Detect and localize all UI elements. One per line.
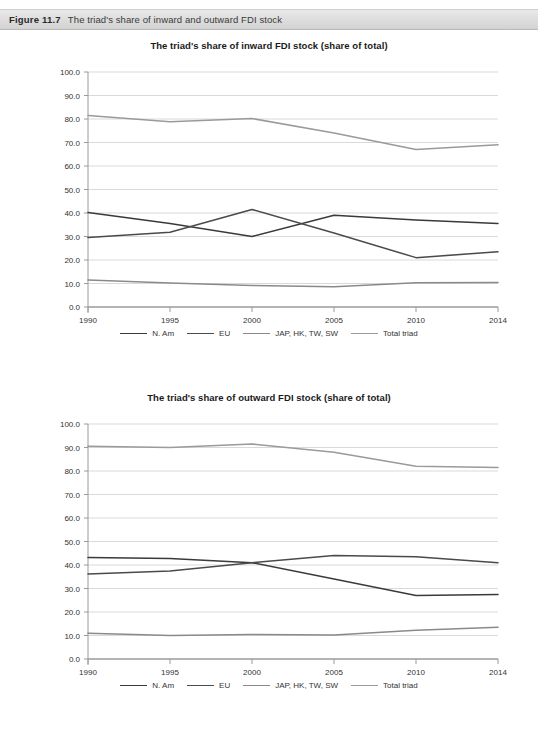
- legend-outward: N. AmEUJAP, HK, TW, SWTotal triad: [0, 681, 538, 690]
- y-axis-tick-label: 10.0: [64, 632, 80, 641]
- y-axis-tick-label: 20.0: [64, 608, 80, 617]
- y-axis-tick-label: 90.0: [64, 444, 80, 453]
- legend-label: Total triad: [383, 681, 418, 690]
- legend-line-swatch: [351, 333, 378, 334]
- legend-label: JAP, HK, TW, SW: [275, 329, 338, 338]
- y-axis-tick-label: 30.0: [64, 233, 80, 242]
- y-axis-tick-label: 60.0: [64, 514, 80, 523]
- x-axis-tick-label: 2010: [407, 668, 425, 677]
- series-line-total-triad: [88, 115, 498, 149]
- x-axis-tick-label: 2000: [243, 668, 261, 677]
- legend-label: N. Am: [152, 329, 174, 338]
- plot-area-inward: 0.010.020.030.040.050.060.070.080.090.01…: [0, 60, 538, 325]
- figure-caption-bar: Figure 11.7 The triad's share of inward …: [0, 9, 538, 30]
- legend-item: Total triad: [351, 329, 418, 338]
- y-axis-tick-label: 50.0: [64, 538, 80, 547]
- x-axis-tick-label: 2005: [325, 316, 343, 325]
- legend-item: JAP, HK, TW, SW: [243, 329, 338, 338]
- legend-line-swatch: [120, 685, 147, 686]
- legend-item: EU: [187, 329, 230, 338]
- legend-item: JAP, HK, TW, SW: [243, 681, 338, 690]
- line-plot-outward: 0.010.020.030.040.050.060.070.080.090.01…: [0, 412, 538, 677]
- legend-inward: N. AmEUJAP, HK, TW, SWTotal triad: [0, 329, 538, 338]
- y-axis-tick-label: 40.0: [64, 561, 80, 570]
- legend-label: EU: [219, 681, 230, 690]
- legend-line-swatch: [351, 685, 378, 686]
- legend-line-swatch: [243, 685, 270, 686]
- series-line-jap-hk-tw-sw: [88, 627, 498, 635]
- legend-item: EU: [187, 681, 230, 690]
- y-axis-tick-label: 80.0: [64, 467, 80, 476]
- legend-label: N. Am: [152, 681, 174, 690]
- legend-label: JAP, HK, TW, SW: [275, 681, 338, 690]
- legend-line-swatch: [243, 333, 270, 334]
- x-axis-tick-label: 1995: [161, 668, 179, 677]
- y-axis-tick-label: 30.0: [64, 585, 80, 594]
- y-axis-tick-label: 70.0: [64, 491, 80, 500]
- legend-line-swatch: [187, 685, 214, 686]
- legend-label: EU: [219, 329, 230, 338]
- series-line-n-am: [88, 557, 498, 595]
- x-axis-tick-label: 2014: [489, 316, 507, 325]
- y-axis-tick-label: 90.0: [64, 92, 80, 101]
- legend-line-swatch: [120, 333, 147, 334]
- figure-caption-text: The triad's share of inward and outward …: [68, 14, 282, 25]
- y-axis-tick-label: 100.0: [60, 420, 81, 429]
- y-axis-tick-label: 10.0: [64, 280, 80, 289]
- y-axis-tick-label: 0.0: [69, 655, 81, 664]
- x-axis-tick-label: 2000: [243, 316, 261, 325]
- plot-area-outward: 0.010.020.030.040.050.060.070.080.090.01…: [0, 412, 538, 677]
- x-axis-tick-label: 1995: [161, 316, 179, 325]
- x-axis-tick-label: 2014: [489, 668, 507, 677]
- chart-title-inward: The triad's share of inward FDI stock (s…: [0, 40, 538, 51]
- y-axis-tick-label: 80.0: [64, 115, 80, 124]
- line-plot-inward: 0.010.020.030.040.050.060.070.080.090.01…: [0, 60, 538, 325]
- x-axis-tick-label: 2005: [325, 668, 343, 677]
- y-axis-tick-label: 60.0: [64, 162, 80, 171]
- legend-label: Total triad: [383, 329, 418, 338]
- chart-title-outward: The triad's share of outward FDI stock (…: [0, 392, 538, 403]
- y-axis-tick-label: 0.0: [69, 303, 81, 312]
- chart-inward-fdi: The triad's share of inward FDI stock (s…: [0, 40, 538, 378]
- legend-item: Total triad: [351, 681, 418, 690]
- x-axis-tick-label: 1990: [79, 316, 97, 325]
- legend-line-swatch: [187, 333, 214, 334]
- x-axis-tick-label: 2010: [407, 316, 425, 325]
- y-axis-tick-label: 50.0: [64, 186, 80, 195]
- x-axis-tick-label: 1990: [79, 668, 97, 677]
- y-axis-tick-label: 70.0: [64, 139, 80, 148]
- y-axis-tick-label: 20.0: [64, 256, 80, 265]
- y-axis-tick-label: 100.0: [60, 68, 81, 77]
- legend-item: N. Am: [120, 681, 174, 690]
- y-axis-tick-label: 40.0: [64, 209, 80, 218]
- series-line-eu: [88, 209, 498, 257]
- figure-label: Figure 11.7: [9, 14, 61, 25]
- legend-item: N. Am: [120, 329, 174, 338]
- chart-outward-fdi: The triad's share of outward FDI stock (…: [0, 392, 538, 732]
